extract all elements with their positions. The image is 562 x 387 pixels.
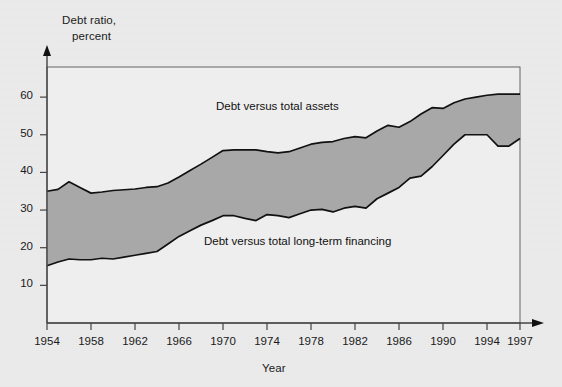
- x-tick-label: 1954: [34, 335, 60, 347]
- y-tick-label: 30: [11, 202, 33, 214]
- x-tick-label: 1978: [298, 335, 324, 347]
- x-axis-title: Year: [262, 362, 286, 374]
- x-axis-arrowhead: [532, 319, 544, 327]
- x-tick-label: 1966: [166, 335, 192, 347]
- y-tick-label: 10: [11, 277, 33, 289]
- y-tick-label: 50: [11, 127, 33, 139]
- y-axis-title-line2: percent: [72, 30, 111, 42]
- x-tick-label: 1958: [78, 335, 104, 347]
- x-tick-label: 1982: [342, 335, 368, 347]
- series-label-upper: Debt versus total assets: [216, 100, 339, 112]
- y-tick-label: 40: [11, 164, 33, 176]
- x-tick-label: 1990: [430, 335, 456, 347]
- series-label-lower: Debt versus total long-term financing: [204, 235, 391, 247]
- x-tick-label: 1994: [474, 335, 500, 347]
- chart-figure: Debt ratio, percent Year Debt versus tot…: [0, 0, 562, 387]
- y-tick-label: 60: [11, 89, 33, 101]
- x-tick-label: 1997: [507, 335, 533, 347]
- x-tick-label: 1974: [254, 335, 280, 347]
- x-tick-label: 1986: [386, 335, 412, 347]
- y-axis-title-line1: Debt ratio,: [62, 14, 116, 26]
- x-tick-label: 1962: [122, 335, 148, 347]
- x-tick-label: 1970: [210, 335, 236, 347]
- y-axis-arrowhead: [43, 45, 51, 56]
- chart-canvas: [0, 0, 562, 387]
- y-tick-label: 20: [11, 240, 33, 252]
